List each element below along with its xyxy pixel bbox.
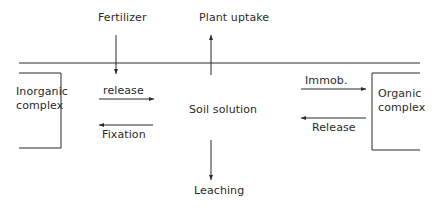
immobilization-label: Immob. [305, 74, 347, 87]
organic-complex-label-line1: Organic [378, 87, 422, 100]
leaching-label: Leaching [194, 184, 244, 197]
inorganic-complex-label-line2: complex [16, 99, 63, 112]
soil-solution-label: Soil solution [189, 103, 257, 116]
organic-complex-label-line2: complex [378, 101, 425, 114]
release-organic-label: Release [312, 121, 356, 134]
fixation-label: Fixation [102, 128, 146, 141]
release-inorganic-label: release [103, 84, 144, 97]
nutrient-cycle-diagram: Fertilizer Plant uptake Soil solution Le… [0, 0, 436, 210]
plant-uptake-label: Plant uptake [199, 11, 269, 24]
inorganic-complex-label-line1: Inorganic [16, 85, 68, 98]
fertilizer-label: Fertilizer [98, 11, 147, 24]
